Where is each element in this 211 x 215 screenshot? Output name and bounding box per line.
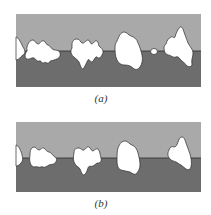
diagram-canvas	[0, 0, 211, 215]
particle-small	[151, 49, 158, 55]
caption-b: (b)	[81, 197, 121, 209]
panel-b	[16, 122, 201, 192]
panel-a	[16, 14, 201, 87]
caption-a: (a)	[81, 92, 121, 104]
figure: (a) (b)	[0, 0, 211, 215]
